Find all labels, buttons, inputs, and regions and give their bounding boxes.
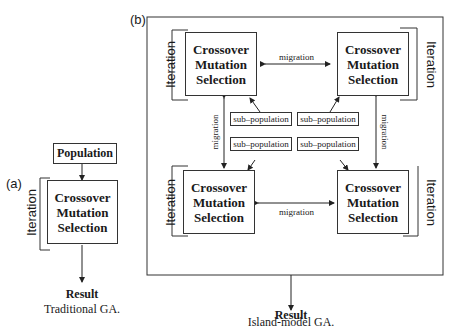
migration-label-top: migration: [279, 52, 314, 62]
caption-a: Traditional GA.: [30, 302, 134, 317]
island-bottom-left: Crossover Mutation Selection: [183, 170, 255, 234]
op-selection: Selection: [196, 72, 246, 87]
migration-label-left: migration: [210, 112, 220, 152]
population-box: Population: [53, 143, 117, 164]
op-mutation: Mutation: [195, 57, 247, 72]
iteration-label-bl: Iteration: [163, 178, 178, 228]
iteration-label-tl: Iteration: [163, 40, 178, 90]
op-mutation: Mutation: [347, 195, 399, 210]
op-selection: Selection: [348, 210, 398, 225]
op-crossover: Crossover: [345, 180, 401, 195]
op-mutation: Mutation: [193, 195, 245, 210]
iteration-label-br: Iteration: [424, 178, 439, 228]
op-selection: Selection: [348, 72, 398, 87]
subpopulation-3: sub–population: [230, 137, 292, 151]
island-top-left: Crossover Mutation Selection: [185, 32, 257, 96]
panel-b-label: (b): [130, 12, 146, 27]
iteration-label-a: Iteration: [24, 188, 39, 238]
panel-a-label: (a): [6, 176, 22, 191]
migration-label-right: migration: [380, 112, 390, 152]
op-mutation: Mutation: [347, 57, 399, 72]
island-top-right: Crossover Mutation Selection: [337, 32, 409, 96]
subpopulation-4: sub–population: [297, 137, 359, 151]
island-bottom-right: Crossover Mutation Selection: [337, 170, 409, 234]
op-crossover: Crossover: [54, 190, 110, 205]
result-a: Result: [52, 287, 112, 302]
op-crossover: Crossover: [191, 180, 247, 195]
op-crossover: Crossover: [345, 42, 401, 57]
migration-label-bottom: migration: [279, 207, 314, 217]
subpopulation-1: sub–population: [230, 112, 292, 126]
op-crossover: Crossover: [193, 42, 249, 57]
subpopulation-2: sub–population: [297, 112, 359, 126]
caption-b: Island-model GA.: [236, 315, 346, 330]
iteration-label-tr: Iteration: [424, 40, 439, 90]
op-selection: Selection: [58, 220, 108, 235]
op-mutation: Mutation: [57, 205, 109, 220]
op-selection: Selection: [194, 210, 244, 225]
ga-operators-box: Crossover Mutation Selection: [47, 180, 118, 244]
